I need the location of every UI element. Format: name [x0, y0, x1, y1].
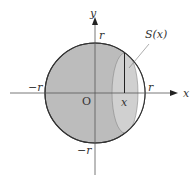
x-tick-neg-r: −r [28, 82, 42, 93]
x-tick-r: r [148, 82, 153, 93]
section-leader-line [129, 44, 149, 68]
origin-label: O [82, 96, 91, 107]
solid-of-revolution-diagram: y x r r −r −r O x S(x) [0, 0, 195, 179]
y-tick-neg-r: −r [77, 145, 91, 156]
y-axis-label: y [90, 8, 96, 19]
section-label: S(x) [145, 29, 167, 40]
y-tick-r: r [99, 30, 104, 41]
point-x-label: x [121, 97, 127, 108]
x-axis-arrow-icon [170, 90, 178, 96]
x-axis-label: x [183, 88, 189, 99]
